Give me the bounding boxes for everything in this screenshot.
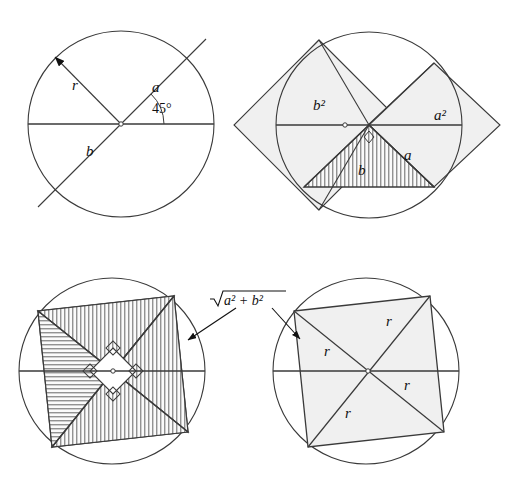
label-b: b: [358, 162, 366, 178]
geometry-figure: r a b 45°: [0, 0, 518, 488]
label-a: a: [404, 147, 412, 163]
panel-bottom-left: [19, 278, 205, 464]
label-a: a: [152, 79, 160, 95]
center-point: [343, 123, 347, 127]
label-r-right: r: [404, 377, 410, 393]
center-point: [366, 369, 370, 373]
hypotenuse-annotation: a² + b²: [188, 291, 300, 340]
label-r-top: r: [386, 313, 392, 329]
radius-arrow: [55, 57, 121, 124]
label-radicand: a² + b²: [224, 293, 264, 308]
label-angle-45: 45°: [152, 101, 172, 116]
arrow-to-bottom-left: [188, 308, 236, 340]
label-b-squared: b²: [313, 97, 326, 113]
center-point: [119, 122, 123, 126]
label-b: b: [86, 143, 94, 159]
panel-top-left: r a b 45°: [28, 31, 214, 217]
label-r: r: [72, 77, 78, 93]
label-a-squared: a²: [434, 107, 447, 123]
panel-bottom-right: r r r r: [273, 278, 459, 464]
panel-top-right: b² a² b a: [234, 32, 500, 218]
label-r-bottom: r: [345, 405, 351, 421]
figure-canvas: r a b 45°: [0, 0, 518, 488]
label-r-left: r: [324, 343, 330, 359]
center-point: [111, 369, 115, 373]
